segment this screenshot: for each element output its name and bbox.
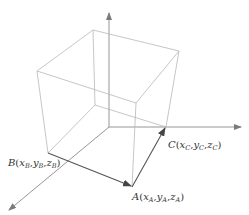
- cube-edge: [95, 105, 166, 127]
- point-name: B: [8, 157, 15, 168]
- subscript: B: [25, 162, 30, 170]
- point-label-b: B(xB,yB,zB): [8, 158, 60, 170]
- subscript: B: [39, 162, 44, 170]
- cube-edge: [37, 71, 136, 103]
- point-label-c: C(xC,yC,zC): [168, 140, 221, 152]
- cube-edge: [136, 51, 179, 103]
- cube-edge: [37, 71, 48, 153]
- subscript: C: [185, 144, 190, 152]
- point-name: C: [168, 139, 176, 150]
- cube-edge: [48, 105, 95, 153]
- subscript: A: [176, 196, 181, 204]
- vector-a-to-c: [132, 128, 165, 187]
- subscript: B: [52, 162, 57, 170]
- point-name: A: [132, 191, 139, 202]
- cube-edge: [93, 30, 179, 51]
- point-label-a: A(xA,yA,zA): [132, 192, 184, 204]
- cube-edge: [166, 51, 179, 127]
- cube-edge: [132, 103, 136, 187]
- axes: [9, 13, 241, 210]
- cube-diagram: [0, 0, 249, 215]
- subscript: A: [162, 196, 167, 204]
- subscript: C: [199, 144, 204, 152]
- cube-edge: [37, 30, 93, 71]
- subscript: A: [149, 196, 154, 204]
- cube-edge: [93, 30, 95, 105]
- vectors: [48, 128, 165, 187]
- subscript: C: [212, 144, 217, 152]
